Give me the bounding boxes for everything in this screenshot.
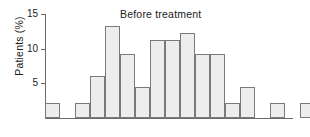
bar xyxy=(210,54,225,118)
bar xyxy=(75,103,90,118)
bar xyxy=(45,103,60,118)
bar xyxy=(90,76,105,118)
bar xyxy=(240,87,255,118)
bar xyxy=(300,103,310,118)
plot-area: 51015 xyxy=(0,0,310,137)
bar xyxy=(195,54,210,118)
y-tick-10 xyxy=(41,49,45,50)
bar xyxy=(105,26,120,118)
bar xyxy=(120,54,135,118)
bar xyxy=(135,87,150,118)
bar xyxy=(225,103,240,118)
bar xyxy=(180,33,195,118)
x-axis-line xyxy=(45,118,293,119)
bar xyxy=(270,103,285,118)
y-tick-15 xyxy=(41,14,45,15)
histogram-figure: 51015 Before treatment Patients (%) xyxy=(0,0,310,137)
chart-title: Before treatment xyxy=(120,8,201,20)
bar xyxy=(165,40,180,118)
y-axis-label: Patients (%) xyxy=(13,1,25,91)
y-tick-5 xyxy=(41,83,45,84)
bar xyxy=(150,40,165,118)
